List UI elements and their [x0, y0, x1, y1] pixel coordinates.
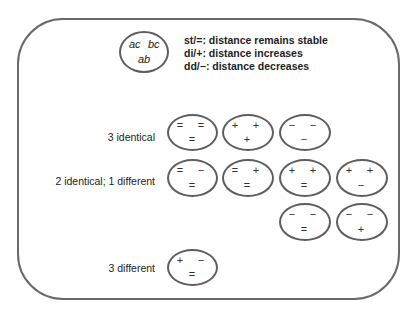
combo-ac: =	[174, 120, 186, 131]
combo-ac: +	[286, 165, 298, 176]
key-label-bc: bc	[148, 38, 160, 50]
combo-ab: −	[298, 134, 310, 145]
combo-bc: −	[195, 255, 207, 266]
key-label-ab: ab	[138, 53, 150, 65]
combo-bc: −	[195, 165, 207, 176]
combo-ab: −	[355, 180, 367, 191]
row-label-3-different: 3 different	[108, 262, 155, 274]
combo-bc: −	[364, 209, 376, 220]
combo-ab: +	[355, 224, 367, 235]
combo-ab: +	[241, 134, 253, 145]
combo-bc: +	[250, 120, 262, 131]
legend-decrease: dd/−: distance decreases	[184, 60, 328, 73]
legend: st/=: distance remains stable di/+: dist…	[184, 34, 328, 73]
combo-bc: =	[195, 120, 207, 131]
legend-increase: di/+: distance increases	[184, 47, 328, 60]
combo-ac: +	[174, 255, 186, 266]
combo-ab: =	[186, 269, 198, 280]
combo-bc: +	[250, 165, 262, 176]
combo-ab: =	[186, 180, 198, 191]
combo-bc: +	[364, 165, 376, 176]
combo-bc: +	[307, 165, 319, 176]
combo-ab: =	[298, 180, 310, 191]
combo-ab: =	[186, 134, 198, 145]
combo-ab: =	[298, 224, 310, 235]
combo-ac: −	[343, 209, 355, 220]
combo-ac: −	[286, 120, 298, 131]
combo-bc: −	[307, 209, 319, 220]
combo-ac: −	[286, 209, 298, 220]
combo-ac: +	[229, 120, 241, 131]
combo-ac: =	[174, 165, 186, 176]
combo-bc: −	[307, 120, 319, 131]
row-label-3-identical: 3 identical	[108, 131, 155, 143]
combo-ac: +	[343, 165, 355, 176]
key-ellipse	[119, 31, 169, 73]
combo-ac: =	[229, 165, 241, 176]
key-label-ac: ac	[129, 38, 141, 50]
row-label-2-identical-1-different: 2 identical; 1 different	[55, 175, 155, 187]
combo-ab: =	[241, 180, 253, 191]
legend-stable: st/=: distance remains stable	[184, 34, 328, 47]
